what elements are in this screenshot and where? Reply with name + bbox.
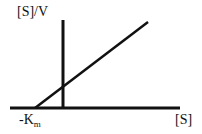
- x-axis-label: [S]: [175, 113, 192, 127]
- km-subscript: m: [34, 119, 41, 129]
- y-axis-label: [S]/V: [17, 5, 48, 19]
- km-main: -K: [19, 112, 34, 127]
- data-line: [35, 22, 148, 108]
- km-intercept-label: -Km: [19, 113, 41, 129]
